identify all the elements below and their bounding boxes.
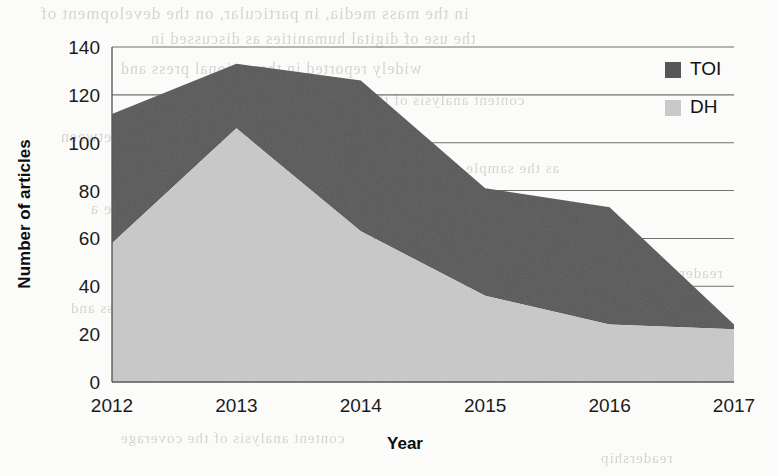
stacked-area-chart: 020406080100120140 201220132014201520162…: [0, 0, 777, 476]
y-axis-tick-label: 140: [68, 37, 100, 58]
x-axis-tick-label: 2016: [588, 395, 630, 416]
x-axis-tick-label: 2013: [215, 395, 257, 416]
y-axis-tick-label: 80: [79, 181, 100, 202]
x-axis-tick-label: 2012: [91, 395, 133, 416]
legend-label-dh: DH: [690, 96, 717, 117]
x-axis-title: Year: [387, 434, 423, 453]
y-axis-tick-label: 60: [79, 228, 100, 249]
y-axis-tick-labels: 020406080100120140: [68, 37, 100, 393]
y-axis-tick-label: 20: [79, 324, 100, 345]
chart-svg: 020406080100120140 201220132014201520162…: [0, 0, 777, 476]
chart-legend: TOIDH: [665, 58, 721, 117]
y-axis-tick-label: 40: [79, 276, 100, 297]
legend-swatch-dh-icon: [665, 100, 681, 116]
x-axis-tick-label: 2014: [340, 395, 383, 416]
legend-swatch-toi-icon: [665, 62, 681, 78]
y-axis-tick-label: 0: [89, 372, 100, 393]
y-axis-tick-label: 100: [68, 133, 100, 154]
y-axis-tick-label: 120: [68, 85, 100, 106]
legend-label-toi: TOI: [690, 58, 721, 79]
x-axis-tick-labels: 201220132014201520162017: [91, 395, 755, 416]
y-axis-title: Number of articles: [15, 139, 34, 288]
x-axis-tick-label: 2017: [713, 395, 755, 416]
x-axis-tick-label: 2015: [464, 395, 506, 416]
